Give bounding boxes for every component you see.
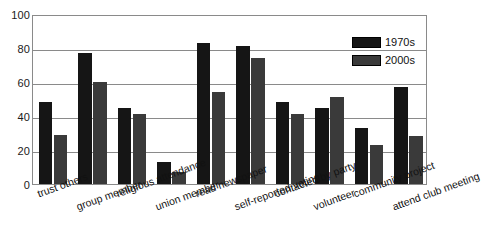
y-tick-label: 60 <box>4 78 30 89</box>
x-axis-labels: trust othersgroup memberreligious attend… <box>0 185 441 241</box>
legend-item: 2000s <box>352 53 424 68</box>
y-tick-label: 100 <box>4 10 30 21</box>
bar <box>212 92 226 184</box>
legend-label: 2000s <box>385 55 415 66</box>
y-tick-label: 40 <box>4 112 30 123</box>
y-tick-label: 20 <box>4 146 30 157</box>
legend-swatch <box>352 55 381 66</box>
legend-label: 1970s <box>385 37 415 48</box>
legend-swatch <box>352 37 381 48</box>
bar <box>39 102 53 184</box>
legend: 1970s2000s <box>352 35 424 71</box>
bar <box>291 114 305 184</box>
bar <box>236 46 250 184</box>
bar <box>118 108 132 185</box>
bar <box>133 114 147 184</box>
legend-item: 1970s <box>352 35 424 50</box>
y-tick-label: 80 <box>4 44 30 55</box>
x-tick-label: volunteer <box>312 187 356 212</box>
bar <box>93 82 107 184</box>
bar <box>78 53 92 184</box>
bar <box>276 102 290 184</box>
bar <box>355 128 369 184</box>
